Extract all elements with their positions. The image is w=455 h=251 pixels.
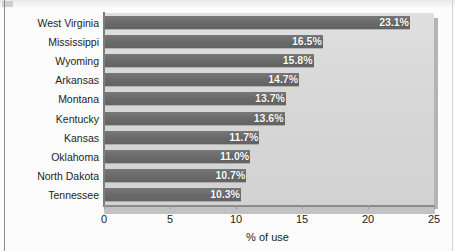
bar-row: North Dakota10.7%: [0, 167, 455, 186]
x-tick-mark: [104, 205, 105, 209]
x-tick-mark: [434, 205, 435, 209]
bar-row: Kentucky13.6%: [0, 110, 455, 129]
x-tick-label: 25: [428, 213, 440, 225]
bar-row: Mississippi16.5%: [0, 33, 455, 52]
category-label: Mississippi: [48, 35, 99, 49]
x-tick-label: 5: [167, 213, 173, 225]
bar-row: Oklahoma11.0%: [0, 148, 455, 167]
bar-value-label: 14.7%: [104, 73, 302, 86]
category-label: Oklahoma: [51, 150, 99, 164]
x-tick-mark: [170, 205, 171, 209]
x-tick-mark: [368, 205, 369, 209]
x-axis-ticks: 0510152025: [0, 213, 455, 229]
x-tick-label: 15: [296, 213, 308, 225]
x-tick-label: 0: [101, 213, 107, 225]
bar-row: Montana13.7%: [0, 90, 455, 109]
bar-row: Tennessee10.3%: [0, 186, 455, 205]
category-label: Kansas: [64, 131, 99, 145]
category-label: Kentucky: [56, 112, 99, 126]
bar-value-label: 10.3%: [104, 188, 244, 201]
bar-value-label: 23.1%: [104, 16, 413, 29]
bar-row: West Virginia23.1%: [0, 14, 455, 33]
bar-value-label: 11.7%: [104, 131, 262, 144]
bar-value-label: 16.5%: [104, 35, 326, 48]
bar-chart-figure: West Virginia23.1%Mississippi16.5%Wyomin…: [0, 0, 455, 251]
x-tick-mark: [236, 205, 237, 209]
category-label: West Virginia: [38, 16, 99, 30]
bar-value-label: 13.6%: [104, 112, 288, 125]
x-axis-label: % of use: [0, 231, 455, 243]
category-label: Wyoming: [55, 54, 99, 68]
bar-value-label: 11.0%: [104, 150, 253, 163]
x-tick-mark: [302, 205, 303, 209]
category-label: North Dakota: [37, 169, 99, 183]
x-tick-label: 20: [362, 213, 374, 225]
bar-value-label: 10.7%: [104, 169, 249, 182]
x-axis-label-text: % of use: [246, 231, 289, 243]
category-label: Montana: [58, 92, 99, 106]
bar-row: Arkansas14.7%: [0, 71, 455, 90]
bar-row: Kansas11.7%: [0, 129, 455, 148]
bar-row: Wyoming15.8%: [0, 52, 455, 71]
x-tick-label: 10: [230, 213, 242, 225]
bar-value-label: 13.7%: [104, 92, 289, 105]
bar-value-label: 15.8%: [104, 54, 317, 67]
category-label: Arkansas: [55, 73, 99, 87]
category-label: Tennessee: [48, 188, 99, 202]
